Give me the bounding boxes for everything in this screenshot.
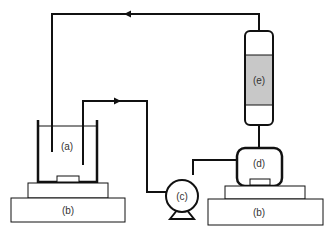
label-e: (e) — [253, 75, 265, 86]
flow-arrow-left-icon — [124, 11, 131, 18]
stirrer-b-right: (b) — [208, 186, 323, 225]
flow-arrow-right-icon — [114, 98, 121, 105]
label-b-left: (b) — [62, 205, 74, 216]
stir-bar-right — [250, 179, 270, 185]
pump-c: (c) — [166, 180, 198, 219]
label-a: (a) — [61, 141, 73, 152]
setup-diagram: (a) (b) (c) (d) (b) (e) — [0, 0, 331, 233]
pump-to-vessel-line — [193, 160, 237, 175]
label-c: (c) — [176, 191, 188, 202]
column-e: (e) — [245, 31, 273, 125]
stir-bar-left — [57, 176, 79, 182]
beaker-a: (a) — [38, 120, 97, 182]
label-b-right: (b) — [253, 207, 265, 218]
label-d: (d) — [253, 158, 265, 169]
stirrer-b-left: (b) — [11, 183, 125, 222]
vessel-d: (d) — [237, 148, 282, 186]
